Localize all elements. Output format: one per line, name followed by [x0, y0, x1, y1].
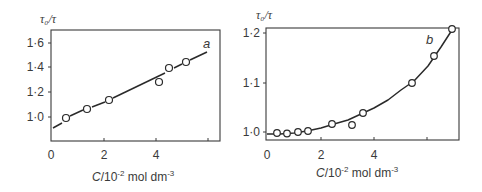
data-point — [63, 115, 70, 122]
panel-b-x-tick-label: 2 — [318, 148, 325, 162]
data-point — [409, 80, 416, 87]
panel-b-y-tick-label: 1·2 — [243, 26, 261, 40]
panel-a-y-tick-label: 1·6 — [27, 36, 45, 50]
panel-a-x-tick-label: 2 — [101, 148, 108, 162]
data-point — [295, 129, 302, 136]
panel-b-fit-curve — [267, 30, 452, 134]
data-point — [305, 128, 312, 135]
data-point — [106, 97, 113, 104]
data-point — [156, 79, 163, 86]
data-point — [284, 130, 291, 137]
panel-a: τ₀/τ 1·0 1·2 1·4 1·6 0 2 4 C/10-2 mol dm… — [27, 12, 220, 184]
panel-b-x-tick-label: 4 — [371, 148, 378, 162]
data-point — [431, 53, 438, 60]
panel-b: τ₀/τ 1·0 1·1 1·2 0 2 4 C/10-2 mol dm-3 — [243, 8, 459, 180]
panel-a-data-points — [63, 59, 190, 122]
panel-b-y-tick-label: 1·1 — [243, 76, 261, 90]
chart-canvas: τ₀/τ 1·0 1·2 1·4 1·6 0 2 4 C/10-2 mol dm… — [0, 0, 482, 192]
data-point — [166, 65, 173, 72]
panel-a-letter: a — [203, 36, 210, 51]
data-point — [349, 122, 356, 129]
data-point — [360, 110, 367, 117]
panel-a-y-axis-title: τ₀/τ — [40, 12, 57, 26]
panel-b-x-tick-label: 0 — [264, 148, 271, 162]
data-point — [183, 59, 190, 66]
panel-a-y-tick-label: 1·4 — [27, 60, 45, 74]
data-point — [274, 130, 281, 137]
panel-b-x-axis-title: C/10-2 mol dm-3 — [316, 165, 399, 180]
panel-b-letter: b — [426, 32, 433, 47]
panel-a-y-tick-label: 1·2 — [27, 85, 45, 99]
panel-a-x-axis-title: C/10-2 mol dm-3 — [92, 169, 175, 184]
panel-a-x-tick-label: 0 — [48, 148, 55, 162]
figure: τ₀/τ 1·0 1·2 1·4 1·6 0 2 4 C/10-2 mol dm… — [0, 0, 482, 192]
panel-b-y-axis-title: τ₀/τ — [256, 8, 273, 22]
data-point — [329, 121, 336, 128]
panel-a-x-tick-label: 4 — [153, 148, 160, 162]
panel-b-y-tick-label: 1·0 — [243, 125, 261, 139]
data-point — [84, 106, 91, 113]
data-point — [449, 26, 456, 33]
panel-a-frame — [51, 30, 220, 141]
panel-a-y-tick-label: 1·0 — [27, 110, 45, 124]
